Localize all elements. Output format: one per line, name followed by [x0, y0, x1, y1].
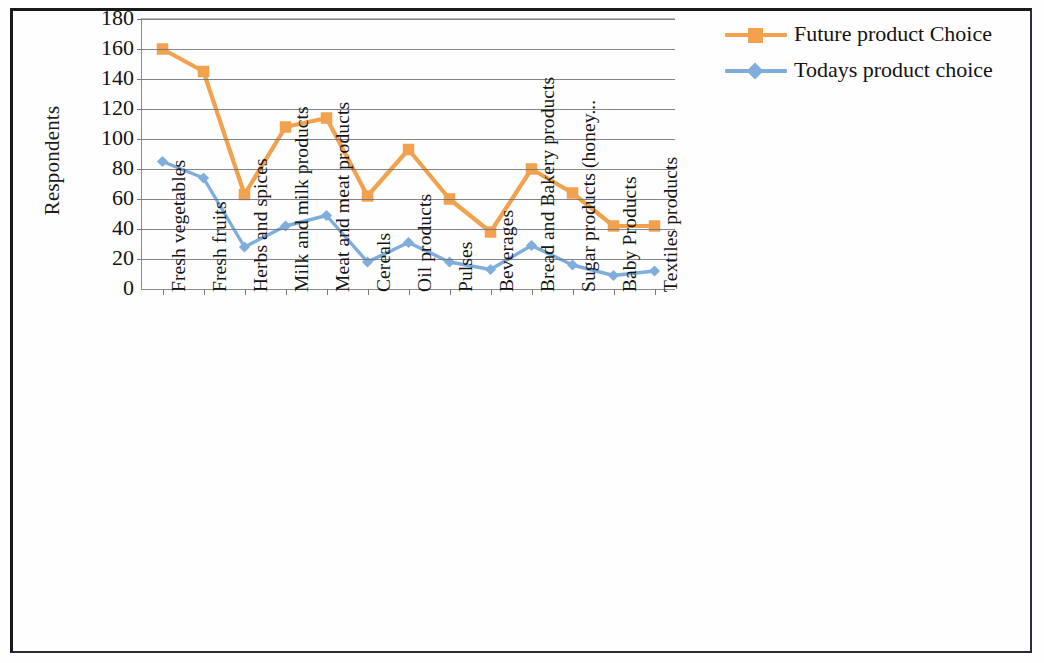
data-point	[649, 265, 660, 276]
x-axis-tick-labels: Fresh vegetablesFresh fruitsHerbs and sp…	[141, 292, 674, 552]
y-tick-label: 100	[56, 127, 134, 149]
data-point	[280, 121, 292, 133]
legend-label: Future product Choice	[794, 23, 992, 45]
x-tick-label: Bread and Bakery products	[538, 77, 558, 292]
y-tick-label: 80	[56, 157, 134, 179]
x-tick-label: Baby Products	[620, 176, 640, 292]
x-tick-label: Fresh vegetables	[169, 160, 189, 292]
x-tick-label: Textiles products	[661, 157, 681, 292]
y-axis-tick	[137, 19, 142, 20]
y-tick-label: 160	[56, 37, 134, 59]
y-axis-tick	[137, 169, 142, 170]
data-point	[403, 144, 415, 156]
x-tick-label: Milk and milk products	[292, 106, 312, 292]
y-tick-label: 20	[56, 247, 134, 269]
data-point	[608, 220, 620, 232]
x-tick-label: Pulses	[456, 242, 476, 292]
data-point	[567, 187, 579, 199]
gridline	[142, 79, 675, 80]
x-tick-label: Herbs and spices	[251, 158, 271, 292]
data-point	[157, 156, 168, 167]
y-axis-tick	[137, 199, 142, 200]
y-axis-tick	[137, 139, 142, 140]
diamond-marker-icon	[747, 62, 764, 79]
legend-label: Todays product choice	[794, 59, 993, 81]
chart-legend: Future product ChoiceTodays product choi…	[725, 16, 1025, 88]
data-point	[608, 270, 619, 281]
gridline	[142, 49, 675, 50]
y-tick-label: 120	[56, 97, 134, 119]
line-chart: Respondents 180160140120100806040200 Fre…	[0, 0, 1044, 663]
data-point	[362, 190, 374, 202]
x-tick-label: Beverages	[497, 210, 517, 292]
square-marker-icon	[748, 28, 763, 43]
data-point	[403, 237, 414, 248]
data-point	[485, 226, 497, 238]
x-tick-label: Sugar products (honey...	[579, 100, 599, 292]
y-axis-tick	[137, 259, 142, 260]
legend-item[interactable]: Future product Choice	[725, 16, 1025, 52]
data-point	[649, 220, 661, 232]
y-axis-tick	[137, 49, 142, 50]
y-tick-label: 140	[56, 67, 134, 89]
data-point	[198, 66, 210, 78]
x-tick-label: Meat and meat products	[333, 102, 353, 292]
legend-marker	[725, 61, 787, 79]
y-tick-label: 0	[56, 277, 134, 299]
y-axis-tick	[137, 79, 142, 80]
y-tick-label: 40	[56, 217, 134, 239]
legend-item[interactable]: Todays product choice	[725, 52, 1025, 88]
y-axis-tick	[137, 109, 142, 110]
x-tick-label: Cereals	[374, 233, 394, 292]
scanned-page: Respondents 180160140120100806040200 Fre…	[0, 0, 1044, 663]
x-tick-label: Fresh fruits	[210, 201, 230, 292]
legend-marker	[725, 25, 787, 43]
y-axis-tick	[137, 229, 142, 230]
x-tick-label: Oil products	[415, 194, 435, 292]
data-point	[321, 112, 333, 124]
y-tick-label: 180	[56, 7, 134, 29]
gridline	[142, 19, 675, 20]
y-axis-tick-labels: 180160140120100806040200	[56, 0, 134, 300]
y-tick-label: 60	[56, 187, 134, 209]
data-point	[567, 259, 578, 270]
